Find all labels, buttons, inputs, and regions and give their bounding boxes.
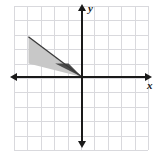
coordinate-plane-figure: y x bbox=[0, 0, 159, 166]
y-axis-up-arrow-icon bbox=[78, 4, 86, 11]
y-axis bbox=[81, 10, 83, 142]
y-axis-label: y bbox=[88, 2, 93, 14]
x-axis-label: x bbox=[147, 79, 153, 91]
y-axis-down-arrow-icon bbox=[78, 141, 86, 148]
x-axis-left-arrow-icon bbox=[10, 73, 17, 81]
